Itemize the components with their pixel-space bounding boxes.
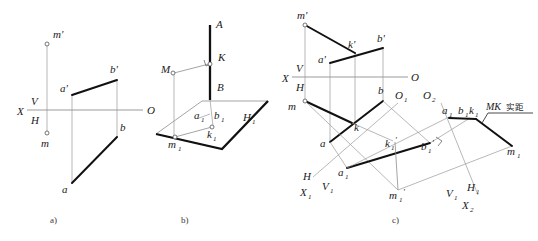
label-b-k1: k 1 [207, 128, 217, 143]
label-b-M: M [160, 63, 171, 75]
svg-text:2: 2 [470, 206, 474, 214]
label-c-k-prime: k' [348, 38, 356, 50]
label-a-axis-x: X [16, 105, 25, 117]
svg-text:′: ′ [432, 138, 434, 148]
label-c-axis-v1-right: V 1 [446, 187, 458, 202]
label-a-a: a [62, 183, 68, 195]
label-a-axis-o: O [147, 104, 155, 116]
svg-text:′: ′ [395, 135, 397, 145]
svg-text:2: 2 [432, 96, 436, 104]
svg-text:1: 1 [404, 96, 408, 104]
svg-text:m: m [507, 145, 515, 157]
label-c-b: b [378, 84, 384, 96]
label-b-A: A [215, 18, 223, 30]
svg-text:1: 1 [454, 194, 458, 202]
svg-text:1: 1 [201, 116, 205, 124]
caption-c: c) [392, 215, 399, 225]
label-c-k1-prime: k 1 ′ [385, 135, 397, 152]
svg-text:a: a [442, 104, 448, 116]
svg-text:1: 1 [428, 147, 432, 155]
label-c-m-prime: m' [297, 9, 308, 21]
label-a-axis-h: H [30, 114, 40, 126]
svg-text:1: 1 [345, 173, 349, 181]
label-c-m: m [288, 100, 296, 112]
svg-text:1: 1 [475, 111, 479, 119]
svg-text:X: X [461, 199, 470, 211]
label-c-a: a [320, 137, 326, 149]
label-c-a1-prime: a 1 ′ [338, 164, 351, 181]
label-c-axis-x: X [281, 72, 290, 84]
svg-text:1: 1 [476, 188, 480, 196]
label-b-K: K [217, 51, 226, 63]
svg-text:H: H [242, 111, 252, 123]
svg-text:X: X [299, 186, 308, 198]
svg-text:H: H [466, 181, 476, 193]
svg-text:b: b [421, 140, 427, 152]
svg-text:V: V [322, 180, 330, 192]
label-b-b1: b 1 [214, 109, 225, 124]
svg-text:′: ′ [349, 164, 351, 174]
caption-b: b) [181, 215, 189, 225]
label-a-a-prime: a' [60, 82, 69, 94]
label-c-axis-v1-left: V 1 [322, 180, 334, 195]
label-c-b1k1: b 1 k 1 [458, 104, 479, 119]
svg-text:V: V [446, 187, 454, 199]
label-c-axis-o1: O 1 [395, 89, 408, 104]
svg-text:1: 1 [178, 145, 182, 153]
label-b-m1: m 1 [168, 138, 182, 153]
label-b-a1: a 1 [194, 109, 205, 124]
svg-text:a: a [338, 166, 344, 178]
label-c-axis-o2: O 2 [423, 89, 436, 104]
annotation-mk-cjk: 实距 [506, 102, 524, 112]
figure-labels-layer: m' a' b' b m a X V H O a) A K B M a 1 b … [0, 0, 538, 241]
svg-text:1: 1 [391, 144, 395, 152]
svg-text:O: O [395, 89, 403, 101]
label-c-b1-prime: b 1 ′ [421, 138, 434, 155]
svg-text:1: 1 [221, 116, 225, 124]
annotation-mk-latin: MK [485, 101, 502, 112]
label-c-axis-v: V [296, 62, 304, 74]
descriptive-geometry-figure: m' a' b' b m a X V H O a) A K B M a 1 b … [0, 0, 538, 241]
svg-text:m: m [168, 138, 176, 150]
label-a-b-prime: b' [110, 63, 119, 75]
label-c-k: k [354, 121, 360, 133]
label-a-b: b [120, 121, 126, 133]
svg-text:1: 1 [330, 187, 334, 195]
svg-text:1: 1 [449, 111, 453, 119]
label-c-m1: m 1 [507, 145, 521, 160]
label-c-axis-h: H [295, 81, 305, 93]
annotation-mk-true-length: MK 实距 [485, 101, 524, 112]
label-c-b-prime: b' [377, 32, 386, 44]
svg-text:m: m [389, 189, 397, 201]
svg-text:a: a [194, 109, 200, 121]
label-a-m-prime: m' [53, 28, 64, 40]
svg-text:1: 1 [213, 135, 217, 143]
label-b-plane-h1: H 1 [242, 111, 256, 126]
svg-text:1: 1 [399, 196, 403, 204]
label-c-m1-prime: m 1 ′ [389, 187, 405, 204]
label-a-axis-v: V [31, 95, 39, 107]
svg-text:1: 1 [252, 118, 256, 126]
label-b-B: B [217, 81, 224, 93]
svg-text:1: 1 [308, 193, 312, 201]
label-a-m: m [41, 137, 49, 149]
label-c-axis-x2: X 2 [461, 199, 474, 214]
label-c-axis-x1: X 1 [299, 186, 312, 201]
label-c-a-prime: a' [318, 53, 327, 65]
label-c-axis-h1-right: H 1 [466, 181, 480, 196]
label-c-axis-h-left: H [302, 170, 312, 182]
svg-text:1: 1 [517, 152, 521, 160]
svg-text:b: b [458, 104, 464, 116]
label-c-a1: a 1 [442, 104, 453, 119]
svg-text:′: ′ [403, 187, 405, 197]
caption-a: a) [50, 215, 57, 225]
svg-text:1: 1 [465, 111, 469, 119]
label-c-axis-o: O [411, 71, 419, 83]
svg-text:O: O [423, 89, 431, 101]
svg-text:b: b [214, 109, 220, 121]
